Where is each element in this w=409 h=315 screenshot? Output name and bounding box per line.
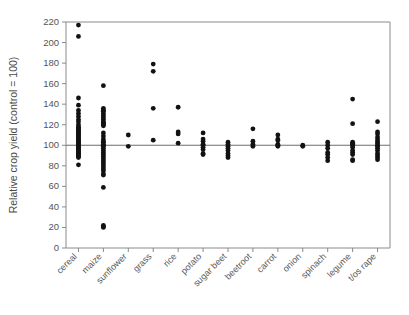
data-point [275, 138, 280, 143]
data-point [350, 158, 355, 163]
data-point [350, 152, 355, 157]
data-point [76, 34, 81, 39]
data-point [275, 133, 280, 138]
y-axis-tick-label: 180 [43, 57, 59, 68]
data-point [176, 105, 181, 110]
y-axis-tick-label: 60 [48, 180, 59, 191]
data-point [325, 158, 330, 163]
data-point [126, 133, 131, 138]
data-point [201, 152, 206, 157]
data-point [251, 126, 256, 131]
y-axis-tick-label: 80 [48, 160, 59, 171]
data-point [101, 83, 106, 88]
data-point [101, 185, 106, 190]
data-point [76, 162, 81, 167]
y-axis-tick-label: 20 [48, 221, 59, 232]
data-point [76, 103, 81, 108]
data-point [325, 146, 330, 151]
y-axis-tick-label: 0 [54, 242, 59, 253]
data-point [101, 173, 106, 178]
y-axis-title: Relative crop yield (control = 100) [7, 57, 19, 214]
data-point [275, 144, 280, 149]
chart-canvas: Relative crop yield (control = 100) 0204… [0, 0, 409, 315]
y-axis-tick-label: 200 [43, 37, 59, 48]
data-point [151, 62, 156, 67]
data-point [375, 157, 380, 162]
data-point [201, 147, 206, 152]
data-point [151, 69, 156, 74]
data-point [101, 225, 106, 230]
scatter-plot-figure: Relative crop yield (control = 100) 0204… [0, 0, 409, 315]
data-point [176, 141, 181, 146]
data-point [350, 121, 355, 126]
data-point [126, 144, 131, 149]
data-point [176, 132, 181, 137]
data-point [251, 144, 256, 149]
data-point [226, 155, 231, 160]
y-axis-tick-label: 220 [43, 16, 59, 27]
data-point [101, 123, 106, 128]
y-axis-tick-label: 100 [43, 139, 59, 150]
data-point [76, 96, 81, 101]
data-point [151, 138, 156, 143]
y-axis-tick-label: 40 [48, 201, 59, 212]
data-point [76, 23, 81, 28]
data-point [76, 155, 81, 160]
y-axis-tick-label: 160 [43, 78, 59, 89]
data-point [350, 97, 355, 102]
y-axis-tick-label: 140 [43, 98, 59, 109]
y-axis-tick-label: 120 [43, 119, 59, 130]
data-point [201, 131, 206, 136]
data-point [300, 144, 305, 149]
data-point [375, 119, 380, 124]
data-point [151, 106, 156, 111]
